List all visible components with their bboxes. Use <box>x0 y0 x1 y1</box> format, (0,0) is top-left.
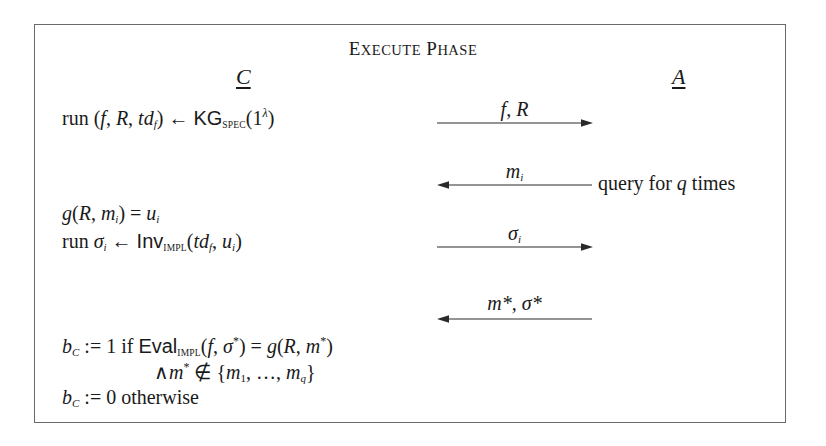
subscript: IMPL <box>163 243 187 253</box>
text: run ( <box>62 107 100 129</box>
var-m: m <box>226 361 240 383</box>
text: ← <box>107 230 137 252</box>
text: ) <box>326 335 333 357</box>
var-R: R <box>284 335 296 357</box>
challenger-step-verify: bC := 1 if EvalIMPL(f, σ*) = g(R, m*) <box>62 334 333 358</box>
var-u: u <box>146 202 156 224</box>
adversary-label: A <box>672 64 685 90</box>
var-g: g <box>62 202 72 224</box>
text: ) <box>268 107 275 129</box>
text: := 1 if <box>79 335 138 357</box>
text: , <box>212 230 222 252</box>
algo-eval: Eval <box>138 335 177 357</box>
var-q: q <box>677 172 687 194</box>
text: ( <box>72 202 79 224</box>
challenger-step-freshness: ∧m* ∉ {m1, …, mq} <box>154 360 316 384</box>
text: ( <box>277 335 284 357</box>
algo-keygen: KG <box>193 107 222 129</box>
var-td: td <box>193 230 209 252</box>
text: query for <box>598 172 677 194</box>
challenger-step-compute-u: g(R, mi) = ui <box>62 202 159 225</box>
text: , <box>213 335 223 357</box>
var-sigma: σ <box>94 230 104 252</box>
var-m: m <box>169 361 183 383</box>
text: , <box>296 335 306 357</box>
arrow-left-icon <box>437 314 592 324</box>
var-m: m <box>306 335 320 357</box>
var-sigma: σ <box>508 222 518 244</box>
text: , <box>91 202 101 224</box>
subscript: SPEC <box>222 120 246 130</box>
message-label-forgery: m*, σ* <box>437 292 592 315</box>
var-m: m <box>506 160 520 182</box>
text: , <box>128 107 138 129</box>
challenger-step-keygen: run (f, R, tdf) ← KGSPEC(1λ) <box>62 106 274 130</box>
algo-invert: Inv <box>137 230 164 252</box>
text: ) ← <box>157 107 194 129</box>
text: run <box>62 230 94 252</box>
text: ∉ { <box>189 361 226 383</box>
text: ) = <box>239 335 267 357</box>
var-R: R <box>116 107 128 129</box>
text: , <box>106 107 116 129</box>
text: } <box>306 361 316 383</box>
arrow-right-icon <box>437 242 593 252</box>
text: times <box>687 172 735 194</box>
arrow-left-icon <box>437 180 592 190</box>
text: ) <box>235 230 242 252</box>
arrow-right-icon <box>437 118 593 128</box>
challenger-label: C <box>236 64 251 90</box>
var-td: td <box>138 107 154 129</box>
var-R: R <box>79 202 91 224</box>
title-word2-rest: hase <box>437 42 477 58</box>
title-word1-rest: xecute <box>361 42 421 58</box>
text: , …, <box>246 361 286 383</box>
var-b: b <box>62 335 72 357</box>
text: ) = <box>118 202 146 224</box>
challenger-step-invert: run σi ← InvIMPL(tdf, ui) <box>62 230 242 253</box>
var-sigma: σ <box>223 335 233 357</box>
query-count-note: query for q times <box>598 172 735 195</box>
var-g: g <box>267 335 277 357</box>
var-m: m <box>101 202 115 224</box>
subscript: i <box>156 213 159 225</box>
title-word1-initial: E <box>349 38 361 59</box>
text: := 0 otherwise <box>79 386 199 408</box>
var-m: m <box>286 361 300 383</box>
challenger-step-otherwise: bC := 0 otherwise <box>62 386 199 409</box>
var-b: b <box>62 386 72 408</box>
text: ∧ <box>154 361 169 383</box>
text: (1 <box>246 107 263 129</box>
phase-title: Execute Phase <box>0 38 826 60</box>
subscript: IMPL <box>177 348 201 358</box>
title-word2-initial: P <box>426 38 437 59</box>
var-u: u <box>222 230 232 252</box>
